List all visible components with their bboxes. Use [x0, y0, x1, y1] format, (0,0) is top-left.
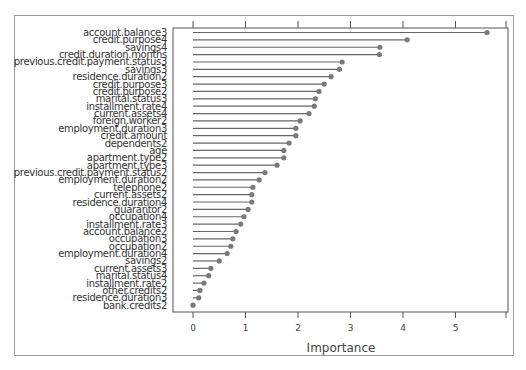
category-label: bank.credits2	[103, 300, 167, 311]
importance-lollipop-chart: 012345 account.balance3credit.purpose4sa…	[0, 0, 526, 370]
data-point	[257, 177, 262, 182]
data-point	[298, 118, 303, 123]
data-row: dependents2	[105, 138, 292, 149]
x-tick-label: 2	[295, 323, 301, 333]
data-row: age	[149, 145, 286, 156]
data-point	[286, 140, 291, 145]
data-point	[206, 273, 211, 278]
data-point	[249, 192, 254, 197]
data-point	[337, 67, 342, 72]
top-axis-ticks	[193, 21, 506, 28]
data-point	[293, 126, 298, 131]
x-tick-label: 1	[243, 323, 249, 333]
data-point	[293, 133, 298, 138]
data-row: employment.duration3	[58, 123, 298, 134]
data-point	[312, 104, 317, 109]
data-point	[306, 111, 311, 116]
data-point	[241, 214, 246, 219]
x-axis: 012345	[190, 312, 506, 333]
data-point	[196, 295, 201, 300]
data-point	[225, 251, 230, 256]
data-point	[233, 229, 238, 234]
data-point	[274, 163, 279, 168]
data-point	[328, 74, 333, 79]
data-point	[201, 280, 206, 285]
data-point	[262, 170, 267, 175]
data-point	[377, 52, 382, 57]
x-tick-label: 4	[400, 323, 406, 333]
data-point	[190, 303, 195, 308]
data-point	[228, 244, 233, 249]
data-row: previous.credit.payment.status3	[14, 56, 345, 67]
data-point	[313, 96, 318, 101]
x-axis-label: Importance	[307, 341, 376, 355]
data-point	[250, 185, 255, 190]
x-tick-label: 5	[453, 323, 459, 333]
data-point	[322, 81, 327, 86]
data-point	[405, 37, 410, 42]
data-point	[281, 155, 286, 160]
data-point	[377, 45, 382, 50]
x-tick-label: 0	[190, 323, 196, 333]
data-point	[246, 207, 251, 212]
data-point	[484, 30, 489, 35]
data-point	[249, 199, 254, 204]
data-point	[340, 59, 345, 64]
data-point	[208, 266, 213, 271]
x-tick-label: 3	[348, 323, 354, 333]
data-point	[281, 148, 286, 153]
data-rows: account.balance3credit.purpose4savings4c…	[14, 27, 490, 311]
data-point	[217, 258, 222, 263]
data-row: bank.credits2	[103, 300, 196, 311]
data-point	[238, 222, 243, 227]
data-point	[197, 288, 202, 293]
data-point	[230, 236, 235, 241]
data-point	[316, 89, 321, 94]
